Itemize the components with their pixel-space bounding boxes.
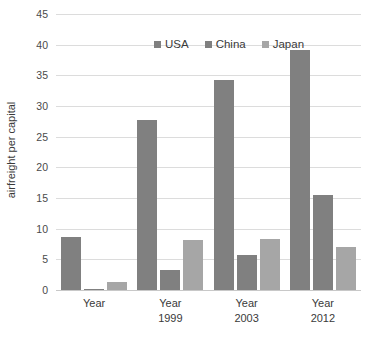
y-tick-label: 45 — [36, 8, 48, 20]
bar-china-2 — [237, 255, 257, 290]
bar-usa-2 — [214, 80, 234, 290]
y-axis-title: airfreight per capital — [0, 0, 22, 300]
legend-item-usa[interactable]: USA — [154, 38, 189, 50]
x-axis-label-group-1: Year1999 — [132, 296, 208, 326]
bar-usa-0 — [61, 237, 81, 290]
x-axis-label-line: 1999 — [132, 311, 208, 326]
bar-japan-0 — [107, 282, 127, 290]
gridline — [56, 290, 361, 291]
bar-usa-1 — [137, 120, 157, 291]
bar-chart: airfreight per capital 05101520253035404… — [0, 0, 368, 343]
y-tick-label: 0 — [42, 284, 48, 296]
legend-label: Japan — [273, 38, 304, 50]
x-axis-label-group-0: Year — [56, 296, 132, 311]
x-axis-label-line: 2012 — [285, 311, 361, 326]
x-axis-label-line: Year — [209, 296, 285, 311]
legend-item-china[interactable]: China — [205, 38, 246, 50]
x-axis-label-line: Year — [132, 296, 208, 311]
y-tick-label: 40 — [36, 39, 48, 51]
bars-layer — [56, 14, 361, 290]
legend-label: USA — [165, 38, 189, 50]
legend-swatch-icon — [205, 41, 212, 48]
bar-japan-1 — [183, 240, 203, 290]
plot-area: USAChinaJapan — [56, 14, 361, 290]
y-tick-label: 30 — [36, 100, 48, 112]
bar-japan-3 — [336, 247, 356, 290]
x-axis-category-labels: YearYear1999Year2003Year2012 — [56, 296, 361, 340]
legend-swatch-icon — [154, 41, 161, 48]
x-axis-label-line: Year — [285, 296, 361, 311]
legend-swatch-icon — [262, 41, 269, 48]
bar-japan-2 — [260, 239, 280, 290]
bar-china-0 — [84, 289, 104, 290]
chart-legend: USAChinaJapan — [154, 38, 304, 50]
y-tick-label: 35 — [36, 69, 48, 81]
legend-label: China — [216, 38, 246, 50]
y-axis-title-label: airfreight per capital — [5, 102, 17, 199]
y-tick-label: 5 — [42, 253, 48, 265]
y-tick-label: 25 — [36, 131, 48, 143]
y-tick-label: 15 — [36, 192, 48, 204]
x-axis-label-group-3: Year2012 — [285, 296, 361, 326]
x-axis-label-group-2: Year2003 — [209, 296, 285, 326]
bar-china-3 — [313, 195, 333, 290]
bar-china-1 — [160, 270, 180, 290]
x-axis-label-line: 2003 — [209, 311, 285, 326]
y-tick-label: 10 — [36, 223, 48, 235]
y-axis-tick-labels: 051015202530354045 — [22, 14, 52, 290]
bar-usa-3 — [290, 50, 310, 290]
x-axis-label-line: Year — [56, 296, 132, 311]
legend-item-japan[interactable]: Japan — [262, 38, 304, 50]
y-tick-label: 20 — [36, 161, 48, 173]
